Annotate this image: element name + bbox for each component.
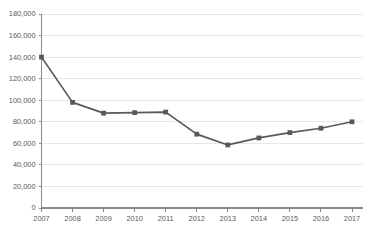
- y-axis-group: 020,00040,00060,00080,000100,000120,0001…: [9, 9, 42, 212]
- line-chart: 020,00040,00060,00080,000100,000120,0001…: [0, 0, 368, 241]
- x-axis-tick-label: 2012: [189, 214, 205, 223]
- gridlines-group: [42, 14, 364, 186]
- data-point-marker: [256, 136, 261, 141]
- x-axis-tick-label: 2011: [158, 214, 174, 223]
- data-point-marker: [350, 119, 355, 124]
- y-axis-tick-label: 180,000: [9, 9, 36, 18]
- y-axis-tick-label: 0: [31, 203, 35, 212]
- data-point-marker: [101, 111, 106, 116]
- data-point-marker: [319, 126, 324, 131]
- x-axis-tick-label: 2009: [95, 214, 111, 223]
- data-point-marker: [70, 100, 75, 105]
- y-axis-tick-label: 40,000: [13, 160, 36, 169]
- x-axis-tick-label: 2016: [313, 214, 329, 223]
- y-axis-tick-label: 160,000: [9, 31, 36, 40]
- x-axis-group: 2007200820092010201120122013201420152016…: [33, 208, 363, 223]
- y-axis-tick-label: 20,000: [13, 182, 36, 191]
- data-point-marker: [225, 143, 230, 148]
- x-axis-tick-label: 2015: [282, 214, 298, 223]
- data-point-marker: [132, 110, 137, 115]
- data-point-marker: [288, 130, 293, 135]
- x-axis-tick-label: 2008: [64, 214, 80, 223]
- series-group: [39, 55, 354, 148]
- data-point-marker: [39, 55, 44, 60]
- y-axis-tick-label: 100,000: [9, 96, 36, 105]
- x-axis-tick-label: 2007: [33, 214, 49, 223]
- x-axis-tick-label: 2013: [220, 214, 236, 223]
- y-axis-tick-label: 60,000: [13, 139, 36, 148]
- y-axis-tick-label: 80,000: [13, 117, 36, 126]
- x-axis-tick-label: 2010: [126, 214, 142, 223]
- data-point-marker: [163, 110, 168, 115]
- y-axis-tick-label: 120,000: [9, 74, 36, 83]
- data-point-marker: [194, 132, 199, 137]
- x-axis-tick-label: 2017: [344, 214, 360, 223]
- y-axis-tick-label: 140,000: [9, 53, 36, 62]
- chart-canvas: 020,00040,00060,00080,000100,000120,0001…: [0, 0, 368, 241]
- x-axis-tick-label: 2014: [251, 214, 267, 223]
